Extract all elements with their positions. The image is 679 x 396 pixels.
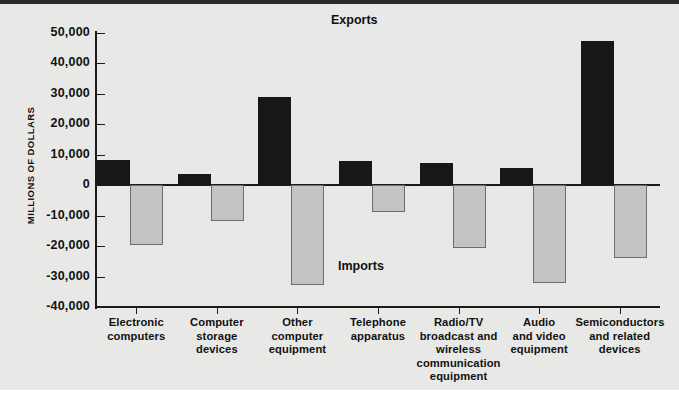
category-label-line: Radio/TV — [414, 316, 503, 330]
bar-exports — [420, 163, 453, 185]
category-label-line: and related — [575, 330, 664, 344]
x-axis-category-label: Electroniccomputers — [92, 316, 181, 343]
category-label-line: broadcast and — [414, 330, 503, 344]
y-tick-label: 20,000 — [4, 116, 90, 130]
x-tick-mark — [297, 307, 298, 314]
bar-imports — [372, 185, 405, 212]
bar-imports — [130, 185, 163, 245]
x-tick-mark — [378, 307, 379, 314]
bar-imports — [211, 185, 244, 220]
y-tick-label: -20,000 — [4, 238, 90, 252]
bar-imports — [291, 185, 324, 285]
imports-series-label: Imports — [338, 259, 384, 273]
category-label-line: storage — [173, 330, 262, 344]
category-label-line: devices — [173, 343, 262, 357]
category-label-line: communication — [414, 357, 503, 371]
x-axis-category-label: Audioand videoequipment — [495, 316, 584, 357]
x-tick-mark — [539, 307, 540, 314]
x-tick-mark — [217, 307, 218, 314]
category-label-line: Semiconductors — [575, 316, 664, 330]
chart-page: MILLIONS OF DOLLARS 50,00040,00030,00020… — [0, 0, 679, 396]
category-label-line: Audio — [495, 316, 584, 330]
y-tick-label: -30,000 — [4, 269, 90, 283]
y-tick-label: 0 — [4, 177, 90, 191]
y-tick-mark — [97, 246, 105, 247]
exports-series-label: Exports — [331, 13, 378, 27]
category-label-line: and video — [495, 330, 584, 344]
y-tick-mark — [97, 185, 105, 186]
y-tick-label: -40,000 — [4, 299, 90, 313]
y-tick-mark — [97, 216, 105, 217]
page-top-rule — [0, 0, 679, 4]
x-tick-mark — [136, 307, 137, 314]
category-label-line: equipment — [253, 343, 342, 357]
category-label-line: wireless — [414, 343, 503, 357]
y-tick-label: 50,000 — [4, 25, 90, 39]
y-axis-tick-labels: 50,00040,00030,00020,00010,0000-10,000-2… — [0, 0, 90, 396]
x-axis-category-label: Othercomputerequipment — [253, 316, 342, 357]
x-tick-mark — [620, 307, 621, 314]
category-label-line: devices — [575, 343, 664, 357]
y-tick-mark — [97, 94, 105, 95]
category-label-line: Electronic — [92, 316, 181, 330]
bar-imports — [453, 185, 486, 248]
category-label-line: Other — [253, 316, 342, 330]
category-label-line: equipment — [495, 343, 584, 357]
bar-exports — [258, 97, 291, 185]
bar-imports — [533, 185, 566, 282]
category-label-line: Telephone — [334, 316, 423, 330]
y-tick-mark — [97, 33, 105, 34]
category-label-line: computer — [253, 330, 342, 344]
y-tick-label: 40,000 — [4, 55, 90, 69]
y-tick-mark — [97, 155, 105, 156]
x-axis-category-label: Radio/TVbroadcast andwirelesscommunicati… — [414, 316, 503, 384]
y-tick-mark — [97, 277, 105, 278]
page-bottom-strip — [0, 390, 679, 396]
y-tick-mark — [97, 63, 105, 64]
category-label-line: Computer — [173, 316, 262, 330]
category-label-line: apparatus — [334, 330, 423, 344]
y-tick-label: 10,000 — [4, 147, 90, 161]
y-tick-label: 30,000 — [4, 86, 90, 100]
bar-exports — [339, 161, 372, 185]
category-label-line: equipment — [414, 370, 503, 384]
x-axis-category-label: Computerstoragedevices — [173, 316, 262, 357]
bar-exports — [178, 174, 211, 185]
y-tick-mark — [97, 307, 105, 308]
y-tick-mark — [97, 124, 105, 125]
y-tick-label: -10,000 — [4, 208, 90, 222]
bar-exports — [500, 168, 533, 186]
x-axis-category-label: Semiconductorsand relateddevices — [575, 316, 664, 357]
bar-imports — [614, 185, 647, 258]
x-axis-category-label: Telephoneapparatus — [334, 316, 423, 343]
bar-exports — [581, 41, 614, 186]
x-tick-mark — [459, 307, 460, 314]
bar-exports — [97, 160, 130, 185]
category-label-line: computers — [92, 330, 181, 344]
